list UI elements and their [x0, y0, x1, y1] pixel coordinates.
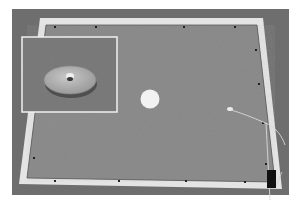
board-photo [0, 0, 298, 209]
connector-block [267, 170, 276, 188]
inset-view [22, 37, 117, 112]
target-disk [141, 90, 160, 109]
